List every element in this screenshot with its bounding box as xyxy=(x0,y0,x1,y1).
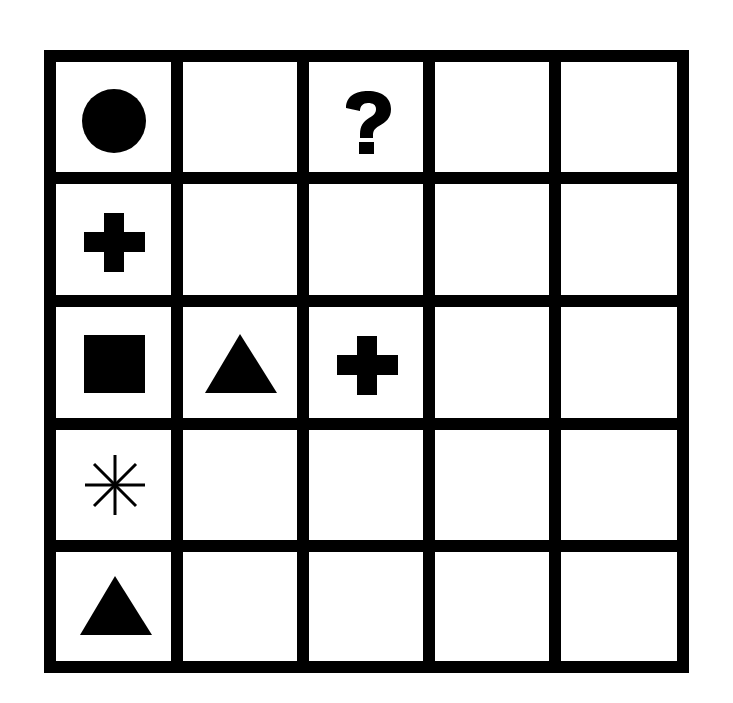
grid-hline-1 xyxy=(44,172,689,184)
grid-hline-4 xyxy=(44,540,689,552)
puzzle-grid: ? xyxy=(0,0,733,703)
grid-vline-2 xyxy=(297,50,309,673)
circle-icon xyxy=(82,89,146,153)
border-left xyxy=(44,50,56,673)
grid-vline-3 xyxy=(423,50,435,673)
border-right xyxy=(677,50,689,673)
grid-hline-2 xyxy=(44,295,689,307)
grid-vline-1 xyxy=(171,50,183,673)
border-top xyxy=(44,50,689,62)
grid-vline-4 xyxy=(549,50,561,673)
border-bottom xyxy=(44,661,689,673)
square-icon xyxy=(84,335,145,393)
grid-hline-3 xyxy=(44,418,689,430)
asterisk-icon xyxy=(85,455,145,515)
